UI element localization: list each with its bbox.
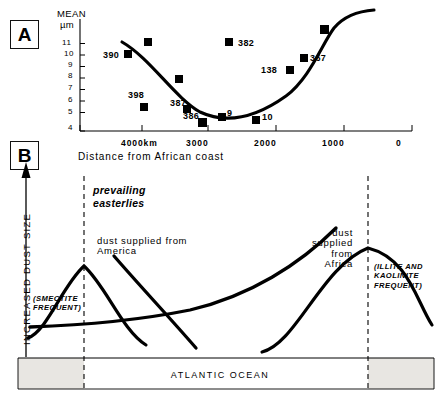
panel-b-y-axis-arrow: [22, 162, 31, 178]
panel-b-land-band-america: [18, 358, 84, 389]
figure-root: A B MEAN µm 11 10 9 8 7 6 5 4 4000km 300…: [0, 0, 441, 403]
panel-b-plot: [0, 0, 441, 403]
panel-b-line-declining: [114, 256, 196, 348]
panel-b-curve-africa-bell: [262, 248, 432, 352]
panel-b-land-band-africa: [368, 358, 434, 389]
panel-b-curve-america-bell: [28, 266, 146, 345]
